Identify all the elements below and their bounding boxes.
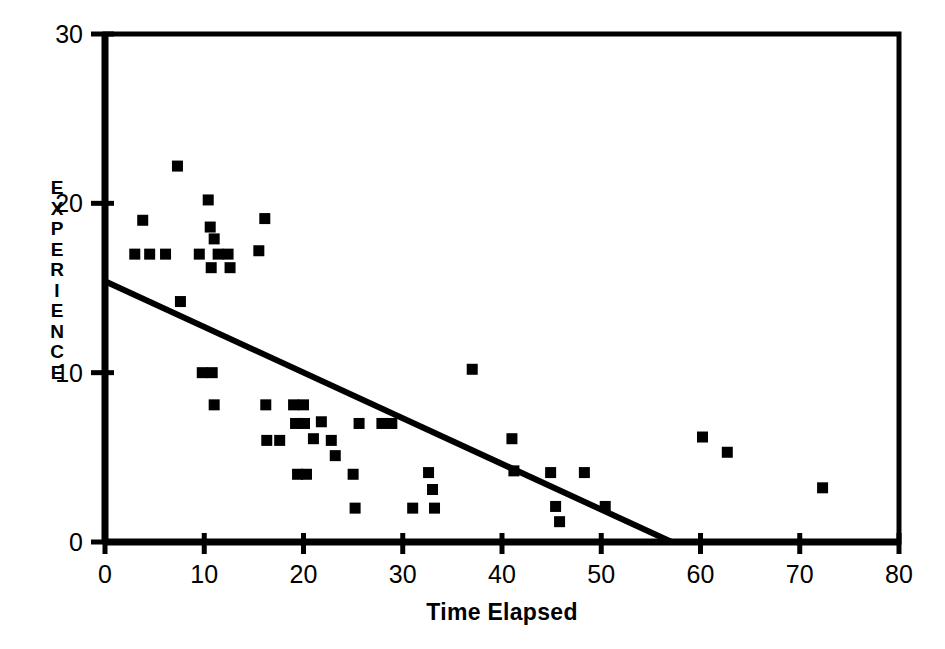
y-axis-title-letter: E <box>44 301 70 322</box>
y-axis-title: EXPERIENCE <box>44 178 70 383</box>
data-point <box>427 484 438 495</box>
data-point <box>697 432 708 443</box>
y-axis-title-letter: C <box>44 342 70 363</box>
data-point <box>209 233 220 244</box>
data-point <box>506 433 517 444</box>
data-point <box>350 503 361 514</box>
y-axis-title-letter: R <box>44 260 70 281</box>
data-point <box>253 245 264 256</box>
data-point <box>316 416 327 427</box>
data-point <box>376 418 387 429</box>
y-axis-title-letter: I <box>44 281 70 302</box>
data-point <box>298 399 309 410</box>
data-point <box>260 399 271 410</box>
data-point <box>213 249 224 260</box>
data-point <box>274 435 285 446</box>
x-tick-label: 20 <box>290 562 318 587</box>
data-point <box>206 262 217 273</box>
data-point <box>600 501 611 512</box>
x-tick-label: 30 <box>389 562 417 587</box>
data-point <box>172 161 183 172</box>
y-axis-title-letter: E <box>44 178 70 199</box>
data-point <box>423 467 434 478</box>
data-point <box>386 418 397 429</box>
data-point <box>407 503 418 514</box>
data-point <box>209 399 220 410</box>
x-tick-label: 70 <box>786 562 814 587</box>
data-point <box>508 465 519 476</box>
plot-canvas <box>0 0 945 649</box>
data-point <box>175 296 186 307</box>
x-axis-title: Time Elapsed <box>426 599 577 626</box>
data-point <box>261 435 272 446</box>
data-point <box>817 482 828 493</box>
data-point <box>129 249 140 260</box>
data-point <box>301 469 312 480</box>
data-point <box>354 418 365 429</box>
data-point <box>429 503 440 514</box>
y-tick-label: 0 <box>0 530 83 555</box>
data-point <box>550 501 561 512</box>
data-point <box>467 364 478 375</box>
x-tick-label: 40 <box>488 562 516 587</box>
y-axis-title-letter: E <box>44 363 70 384</box>
y-tick-label: 30 <box>0 22 83 47</box>
data-point <box>144 249 155 260</box>
scatter-plot-figure: 010203040506070800102030 Time Elapsed EX… <box>0 0 945 649</box>
y-axis-title-letter: X <box>44 199 70 220</box>
data-point <box>288 399 299 410</box>
x-tick-label: 0 <box>98 562 112 587</box>
data-point <box>554 516 565 527</box>
data-point <box>160 249 171 260</box>
axis-ticks <box>91 34 899 554</box>
data-point <box>330 450 341 461</box>
data-point <box>205 222 216 233</box>
data-point <box>722 447 733 458</box>
data-point <box>203 194 214 205</box>
data-point <box>299 418 310 429</box>
data-point <box>137 215 148 226</box>
trend-line <box>105 281 672 542</box>
data-point <box>259 213 270 224</box>
x-tick-label: 80 <box>885 562 913 587</box>
data-point <box>194 249 205 260</box>
y-axis-title-letter: P <box>44 219 70 240</box>
data-point <box>348 469 359 480</box>
data-point <box>223 249 234 260</box>
y-tick-label: 20 <box>0 191 83 216</box>
data-point <box>197 367 208 378</box>
data-point <box>545 467 556 478</box>
data-point <box>225 262 236 273</box>
x-tick-label: 60 <box>687 562 715 587</box>
data-point <box>579 467 590 478</box>
y-axis-title-letter: E <box>44 240 70 261</box>
x-tick-label: 50 <box>587 562 615 587</box>
y-tick-label: 10 <box>0 360 83 385</box>
y-axis-title-letter: N <box>44 322 70 343</box>
data-point <box>308 433 319 444</box>
data-point <box>326 435 337 446</box>
data-point <box>207 367 218 378</box>
x-tick-label: 10 <box>190 562 218 587</box>
